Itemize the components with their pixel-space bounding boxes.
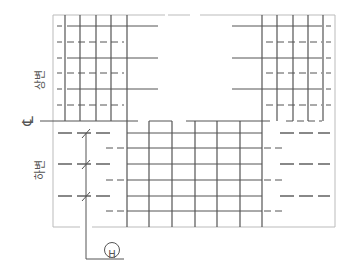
grid-marker-h: H: [104, 242, 120, 258]
rebar-layout-drawing: [0, 0, 355, 278]
lower-grid: [58, 121, 330, 227]
upper-side-label: 상변: [29, 66, 49, 94]
lower-side-label: 하변: [29, 156, 49, 184]
centerline-symbol: ℄: [18, 110, 38, 132]
